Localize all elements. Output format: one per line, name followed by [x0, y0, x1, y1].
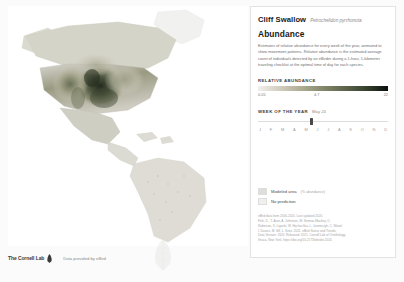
abundance-tick-labels: 0.05 4.7 22	[258, 92, 388, 100]
legend-sublabel-modeled-area: (% abundance)	[301, 190, 325, 194]
abundance-tick-high: 22	[384, 92, 388, 97]
legend-key-no-prediction: No prediction	[258, 198, 388, 205]
abundance-colorbar: 0.05 4.7 22	[258, 86, 388, 100]
legend-label-modeled-area: Modeled area	[271, 189, 297, 194]
cornell-lab-logo[interactable]: The Cornell Lab	[8, 254, 53, 263]
abundance-map[interactable]	[8, 6, 248, 246]
info-panel: Cliff Swallow Petrochelidon pyrrhonota A…	[250, 6, 396, 258]
month-label-1: F	[270, 127, 272, 132]
citation-line-6: Ithaca, New York. https://doi.org/10.217…	[258, 238, 388, 243]
month-label-8: S	[349, 127, 352, 132]
week-of-year-label: WEEK OF THE YEAR	[258, 109, 308, 114]
species-header: Cliff Swallow Petrochelidon pyrrhonota	[258, 15, 388, 24]
month-label-4: M	[304, 127, 307, 132]
month-label-10: N	[373, 127, 376, 132]
legend-label-no-prediction: No prediction	[271, 199, 296, 204]
month-label-5: J	[316, 127, 318, 132]
species-scientific-name: Petrochelidon pyrrhonota	[310, 18, 361, 23]
month-label-6: J	[327, 127, 329, 132]
month-label-0: J	[259, 127, 261, 132]
legend-key-modeled-area: Modeled area(% abundance)	[258, 188, 388, 195]
month-label-2: M	[281, 127, 284, 132]
week-header-row: WEEK OF THE YEAR May 24	[258, 109, 388, 114]
abundance-gradient-bar	[258, 86, 388, 91]
week-slider[interactable]	[258, 118, 388, 125]
week-slider-track[interactable]	[258, 121, 388, 122]
legend-swatch-modeled-area	[258, 188, 267, 195]
week-slider-thumb[interactable]	[310, 118, 313, 125]
month-label-11: D	[384, 127, 387, 132]
section-title: Abundance	[258, 29, 388, 39]
data-credit: Data provided by eBird	[63, 256, 106, 261]
citation-block: eBird data from 2006-2020. Last updated …	[258, 214, 388, 243]
species-common-name: Cliff Swallow	[258, 15, 306, 24]
cornell-lab-logo-text: The Cornell Lab	[8, 255, 44, 261]
legend-swatch-no-prediction	[258, 198, 267, 205]
section-description: Estimates of relative abundance for ever…	[258, 43, 388, 68]
week-of-year-value: May 24	[312, 109, 326, 114]
month-label-7: A	[338, 127, 341, 132]
month-label-3: A	[293, 127, 296, 132]
ebird-status-trends-page: Cliff Swallow Petrochelidon pyrrhonota A…	[0, 0, 404, 282]
map-legend-keys: Modeled area(% abundance)No prediction	[258, 188, 388, 205]
month-labels: JFMAMJJASOND	[258, 127, 388, 132]
map-canvas[interactable]	[8, 6, 248, 246]
month-label-9: O	[361, 127, 364, 132]
page-footer: The Cornell Lab Data provided by eBird	[8, 246, 248, 270]
abundance-tick-low: 0.05	[258, 92, 266, 97]
map-graphic	[8, 6, 248, 246]
feather-watermark-icon	[150, 238, 176, 272]
feather-logo-icon	[46, 254, 53, 263]
relative-abundance-label: RELATIVE ABUNDANCE	[258, 78, 388, 83]
abundance-tick-mid: 4.7	[314, 92, 319, 97]
